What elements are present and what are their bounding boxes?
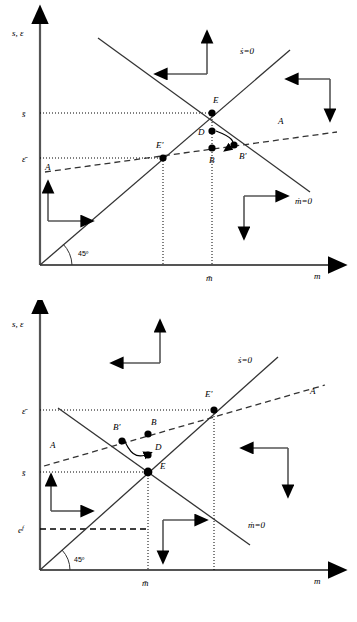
curve-label-A-right: A [277, 116, 284, 126]
point-D [208, 127, 215, 134]
y-tick-ef: ef [18, 524, 25, 535]
arrow-pair-lower-left-top [48, 192, 82, 221]
phase-diagram-bottom: s, ε m ε̄ s̄ ef m̄ 45º ṡ=0 ṁ=0 A A E' … [0, 300, 357, 622]
angle-arc [62, 550, 70, 570]
phase-diagram-top: s, ε m s̄ ε̄ m̄ 45º ṡ=0 ṁ=0 A A E E' D… [0, 0, 357, 300]
point-label-B: B [151, 417, 157, 427]
arrow-pair-upper-left-top [166, 42, 207, 74]
point-label-B: B [209, 155, 215, 165]
point-label-E-prime: E' [204, 389, 213, 399]
y-tick-epsbar: ε̄ [22, 154, 29, 164]
y-axis-label: s, ε [12, 28, 24, 38]
curve-label-s-dot-zero: ṡ=0 [238, 355, 253, 365]
angle-arc [63, 244, 72, 265]
angle-label: 45º [78, 250, 89, 257]
point-label-D: D [197, 127, 205, 137]
y-tick-ef-superscript: f [22, 524, 25, 531]
arrow-pair-lower-middle-bottom [163, 520, 196, 552]
arrow-pair-right-bottom [252, 448, 288, 486]
curve-saddle-path-A [45, 132, 337, 172]
curve-saddle-path-A [44, 385, 325, 466]
point-E [144, 468, 153, 477]
y-axis-label: s, ε [12, 319, 24, 329]
point-label-E: E [212, 95, 219, 105]
arrow-pair-lower-right-top [244, 196, 277, 228]
curve-label-m-dot-zero: ṁ=0 [248, 520, 266, 530]
point-B [208, 144, 215, 151]
y-tick-sbar: s̄ [22, 468, 26, 478]
point-label-E-prime: E' [155, 140, 164, 150]
curve-label-A-left: A [49, 440, 56, 450]
point-E-prime [159, 154, 166, 161]
x-tick-mbar: m̄ [142, 578, 149, 588]
point-label-E: E [159, 461, 166, 471]
x-axis-label: m [314, 576, 321, 586]
point-label-D: D [154, 442, 162, 452]
x-tick-mbar: m̄ [206, 273, 213, 283]
curve-label-A-left: A [44, 162, 51, 172]
point-B-prime [118, 437, 125, 444]
arrow-pair-lower-left-bottom [51, 485, 82, 511]
curve-label-A-right: A [309, 386, 316, 396]
angle-label: 45º [74, 556, 85, 563]
y-tick-sbar: s̄ [22, 109, 26, 119]
axes-top [40, 22, 330, 265]
curve-s-dot-zero [40, 357, 278, 570]
point-B [144, 430, 151, 437]
point-label-B-prime: B' [113, 422, 121, 432]
arrow-pair-upper-left-bottom [122, 331, 160, 363]
curve-label-m-dot-zero: ṁ=0 [295, 196, 313, 206]
point-E-prime [210, 406, 217, 413]
jump-arrow-bprime-to-d [124, 439, 145, 456]
point-B-prime [230, 141, 237, 148]
point-D [144, 451, 151, 458]
y-tick-epsbar: ε̄ [22, 406, 29, 416]
point-label-B-prime: B' [239, 151, 247, 161]
arrow-pair-upper-right-top [297, 79, 330, 110]
x-axis-label: m [314, 271, 321, 281]
figure-page: s, ε m s̄ ε̄ m̄ 45º ṡ=0 ṁ=0 A A E E' D… [0, 0, 357, 622]
curve-s-dot-zero [98, 38, 310, 192]
point-E [208, 109, 215, 116]
curve-label-s-dot-zero: ṡ=0 [240, 46, 255, 56]
curve-m-dot-zero [58, 408, 250, 545]
